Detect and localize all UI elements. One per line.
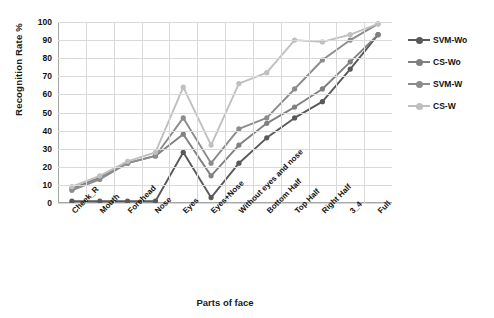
legend-item-label: CS-Wo [433, 57, 461, 67]
data-point-marker [292, 86, 297, 91]
data-point-marker [236, 161, 241, 166]
data-point-marker [125, 159, 130, 164]
y-axis-tick-label: 50 [22, 108, 52, 118]
legend-swatch-icon [408, 57, 430, 67]
data-point-marker [97, 173, 102, 178]
y-axis-tick-label: 40 [22, 126, 52, 136]
y-axis-tick-labels: 0102030405060708090100 [20, 0, 52, 318]
legend-swatch-icon [408, 35, 430, 45]
y-axis-tick-label: 20 [22, 162, 52, 172]
y-axis-tick-label: 100 [22, 17, 52, 27]
data-point-marker [208, 173, 213, 178]
data-point-marker [320, 86, 325, 91]
data-point-marker [292, 115, 297, 120]
legend-item-label: SVM-Wo [433, 35, 467, 45]
data-point-marker [208, 142, 213, 147]
grid-line-vertical [142, 22, 143, 203]
legend-item-cs-w[interactable]: CS-W [408, 98, 494, 114]
grid-line-vertical [225, 22, 226, 203]
y-axis-tick-label: 90 [22, 35, 52, 45]
data-point-marker [264, 70, 269, 75]
y-axis-tick-label: 0 [22, 198, 52, 208]
recognition-rate-line-chart: Recognition Rate % 010203040506070809010… [0, 0, 494, 318]
grid-line-vertical [336, 22, 337, 203]
y-axis-tick-label: 80 [22, 53, 52, 63]
data-point-marker [348, 32, 353, 37]
grid-line-vertical [169, 22, 170, 203]
grid-line-vertical [197, 22, 198, 203]
y-axis-tick-label: 30 [22, 144, 52, 154]
plot-area [58, 22, 392, 203]
legend-item-label: CS-W [433, 101, 456, 111]
grid-line-vertical [253, 22, 254, 203]
data-point-marker [264, 115, 269, 120]
grid-line-vertical [114, 22, 115, 203]
data-point-marker [181, 115, 186, 120]
y-axis-tick-label: 60 [22, 89, 52, 99]
data-point-marker [236, 81, 241, 86]
chart-legend: SVM-WoCS-WoSVM-WCS-W [408, 32, 494, 120]
data-point-marker [320, 99, 325, 104]
grid-line-vertical [86, 22, 87, 203]
data-point-marker [375, 32, 380, 37]
y-axis-tick-label: 70 [22, 71, 52, 81]
x-axis-tick-labels: Cheek_RMouthForeheadNoseEyesEyes+NoseWit… [58, 205, 392, 295]
data-point-marker [181, 150, 186, 155]
data-point-marker [236, 142, 241, 147]
legend-swatch-icon [408, 79, 430, 89]
legend-item-cs-wo[interactable]: CS-Wo [408, 54, 494, 70]
data-point-marker [153, 150, 158, 155]
grid-line-vertical [364, 22, 365, 203]
legend-item-svm-w[interactable]: SVM-W [408, 76, 494, 92]
data-point-marker [348, 66, 353, 71]
grid-line-vertical [309, 22, 310, 203]
data-point-marker [292, 104, 297, 109]
y-axis-tick-label: 10 [22, 180, 52, 190]
data-point-marker [181, 132, 186, 137]
x-axis-title: Parts of face [58, 297, 392, 308]
data-point-marker [348, 59, 353, 64]
legend-swatch-icon [408, 101, 430, 111]
data-point-marker [208, 161, 213, 166]
legend-item-label: SVM-W [433, 79, 462, 89]
data-point-marker [264, 135, 269, 140]
data-point-marker [264, 121, 269, 126]
data-point-marker [208, 195, 213, 200]
legend-item-svm-wo[interactable]: SVM-Wo [408, 32, 494, 48]
data-point-marker [181, 85, 186, 90]
